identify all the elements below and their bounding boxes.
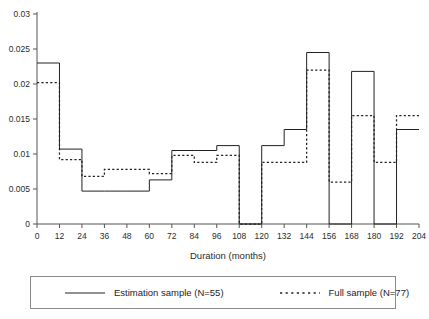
legend-item-full-sample: Full sample (N=77): [280, 287, 410, 298]
x-tick-label: 48: [122, 231, 132, 241]
series-estimation-sample: [37, 53, 419, 225]
x-tick-label: 12: [55, 231, 65, 241]
x-tick-label: 60: [145, 231, 155, 241]
x-tick-label: 24: [77, 231, 87, 241]
y-tick-label: 0.02: [13, 79, 30, 89]
x-axis-title: Duration (months): [190, 250, 266, 261]
x-tick-label: 156: [322, 231, 336, 241]
chart-page: 00.0050.010.0150.020.0250.03 01224364860…: [0, 0, 429, 319]
y-tick-label: 0.015: [9, 114, 31, 124]
x-tick-label: 120: [255, 231, 269, 241]
x-tick-label: 0: [35, 231, 40, 241]
x-tick-label: 84: [190, 231, 200, 241]
series-full-sample: [37, 70, 419, 224]
legend-label-estimation-sample: Estimation sample (N=55): [114, 287, 224, 298]
legend-swatch-dotted-icon: [280, 288, 320, 298]
x-tick-label: 108: [232, 231, 246, 241]
x-tick-label: 192: [389, 231, 403, 241]
y-tick-label: 0.005: [9, 184, 31, 194]
x-tick-label: 144: [300, 231, 314, 241]
plot-area: 00.0050.010.0150.020.0250.03 01224364860…: [0, 0, 429, 272]
y-axis-ticks: 00.0050.010.0150.020.0250.03: [9, 9, 37, 229]
legend-item-estimation-sample: Estimation sample (N=55): [65, 287, 224, 298]
x-tick-label: 168: [344, 231, 358, 241]
x-tick-label: 36: [100, 231, 110, 241]
y-tick-label: 0.01: [13, 149, 30, 159]
hazard-step-chart: 00.0050.010.0150.020.0250.03 01224364860…: [0, 0, 429, 272]
x-tick-label: 180: [367, 231, 381, 241]
x-tick-label: 96: [212, 231, 222, 241]
legend-swatch-solid-icon: [65, 288, 105, 298]
legend-label-full-sample: Full sample (N=77): [329, 287, 410, 298]
chart-legend: Estimation sample (N=55) Full sample (N=…: [30, 276, 396, 309]
y-tick-label: 0.025: [9, 44, 31, 54]
y-tick-label: 0: [25, 219, 30, 229]
x-axis-ticks: 0122436486072849610812013214415616818019…: [35, 224, 427, 241]
y-tick-label: 0.03: [13, 9, 30, 19]
x-tick-label: 72: [167, 231, 177, 241]
x-tick-label: 132: [277, 231, 291, 241]
x-tick-label: 204: [412, 231, 426, 241]
